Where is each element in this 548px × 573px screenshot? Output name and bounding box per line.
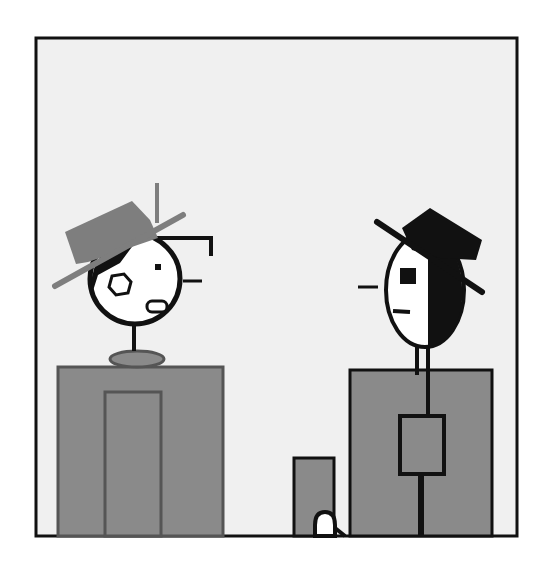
- left-neck-disc: [110, 351, 164, 367]
- comic-panel: Cartoon panel: two stylized figures faci…: [0, 0, 548, 573]
- left-monocle-eye: [109, 274, 131, 295]
- left-body-door: [105, 392, 161, 536]
- right-eye: [400, 268, 416, 284]
- right-buckle: [400, 416, 444, 474]
- left-eye: [155, 264, 161, 270]
- left-mouth: [147, 301, 167, 312]
- right-mouth: [393, 311, 410, 312]
